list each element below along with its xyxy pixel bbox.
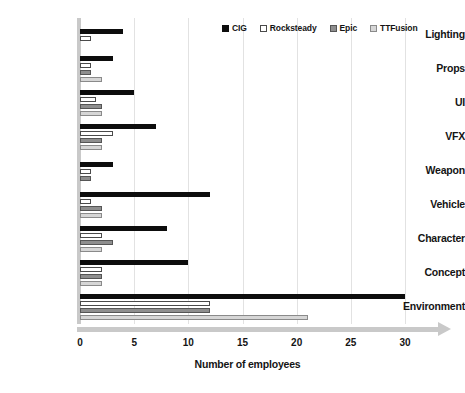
bar-row (80, 267, 405, 272)
bar-row (80, 145, 405, 150)
bar-row (80, 131, 405, 136)
bar-group (80, 90, 405, 118)
legend-swatch-filled-black-icon (222, 25, 229, 32)
bar-row (80, 294, 405, 299)
bar-row (80, 315, 405, 320)
bar-row (80, 247, 405, 252)
bar-group (80, 260, 405, 288)
bar[interactable] (80, 176, 91, 181)
bar-row (80, 281, 405, 286)
bar[interactable] (80, 70, 91, 75)
bar[interactable] (80, 308, 210, 313)
bar[interactable] (80, 213, 102, 218)
bar[interactable] (80, 77, 102, 82)
bar[interactable] (80, 131, 113, 136)
bar[interactable] (80, 233, 102, 238)
bar[interactable] (80, 294, 405, 299)
bar[interactable] (80, 267, 102, 272)
bar-row (80, 124, 405, 129)
legend-item-epic[interactable]: Epic (330, 23, 358, 33)
x-tick-label: 0 (77, 337, 83, 348)
bar-row (80, 111, 405, 116)
bar[interactable] (80, 226, 167, 231)
bar[interactable] (80, 281, 102, 286)
x-axis-title-text: Number of employees (195, 358, 301, 370)
bar[interactable] (80, 145, 102, 150)
bar-row (80, 199, 405, 204)
bar[interactable] (80, 29, 123, 34)
bar[interactable] (80, 199, 91, 204)
bar-row (80, 169, 405, 174)
bar-row (80, 90, 405, 95)
bar-row (80, 192, 405, 197)
x-tick-label: 25 (345, 337, 356, 348)
bar-row (80, 206, 405, 211)
category-label-ui: UI (391, 96, 465, 108)
bar-row (80, 240, 405, 245)
bar-row (80, 70, 405, 75)
bar[interactable] (80, 301, 210, 306)
bar[interactable] (80, 56, 113, 61)
bar[interactable] (80, 206, 102, 211)
bar[interactable] (80, 260, 188, 265)
category-label-environment: Environment (391, 300, 465, 312)
category-label-concept: Concept (391, 266, 465, 278)
legend-item-label: Rocksteady (270, 23, 317, 33)
bar[interactable] (80, 124, 156, 129)
bar[interactable] (80, 247, 102, 252)
legend-swatch-outlined-white-icon (260, 25, 267, 32)
bar-row (80, 63, 405, 68)
bar-row (80, 260, 405, 265)
bar-row (80, 104, 405, 109)
bar[interactable] (80, 104, 102, 109)
bar-group (80, 226, 405, 254)
bar-row (80, 56, 405, 61)
bar-group (80, 162, 405, 183)
bar[interactable] (80, 274, 102, 279)
bar-row (80, 301, 405, 306)
bar-row (80, 176, 405, 181)
bar-group (80, 294, 405, 322)
bar-row (80, 36, 405, 41)
x-tick-label: 20 (291, 337, 302, 348)
plot-area (80, 18, 405, 324)
legend-item-label: TTFusion (380, 23, 417, 33)
x-axis-title: Number of employees (0, 358, 465, 370)
legend-item-label: CIG (232, 23, 247, 33)
legend-swatch-filled-lightgray-icon (370, 25, 377, 32)
legend: CIGRocksteadyEpicTTFusion (222, 23, 418, 33)
category-label-weapon: Weapon (391, 164, 465, 176)
legend-item-ttfusion[interactable]: TTFusion (370, 23, 417, 33)
bar[interactable] (80, 169, 91, 174)
x-axis-arrow-icon (438, 322, 451, 336)
bar[interactable] (80, 97, 96, 102)
bar[interactable] (80, 315, 308, 320)
category-label-vehicle: Vehicle (391, 198, 465, 210)
legend-item-cig[interactable]: CIG (222, 23, 247, 33)
bar[interactable] (80, 138, 102, 143)
bar[interactable] (80, 63, 91, 68)
legend-item-rocksteady[interactable]: Rocksteady (260, 23, 317, 33)
bar[interactable] (80, 90, 134, 95)
bar-row (80, 226, 405, 231)
bar-group (80, 56, 405, 84)
legend-item-label: Epic (340, 23, 358, 33)
bar-row (80, 97, 405, 102)
bar-row (80, 77, 405, 82)
bar-chart: LightingPropsUIVFXWeaponVehicleCharacter… (0, 0, 465, 393)
bar[interactable] (80, 162, 113, 167)
category-label-character: Character (391, 232, 465, 244)
bar[interactable] (80, 240, 113, 245)
bar-row (80, 233, 405, 238)
bar-group (80, 192, 405, 220)
x-tick-label: 5 (131, 337, 137, 348)
bar[interactable] (80, 192, 210, 197)
x-tick-label: 30 (399, 337, 410, 348)
bar-row (80, 162, 405, 167)
legend-swatch-filled-gray-icon (330, 25, 337, 32)
category-label-props: Props (391, 62, 465, 74)
bar[interactable] (80, 36, 91, 41)
bar[interactable] (80, 111, 102, 116)
bar-row (80, 308, 405, 313)
bar-row (80, 213, 405, 218)
